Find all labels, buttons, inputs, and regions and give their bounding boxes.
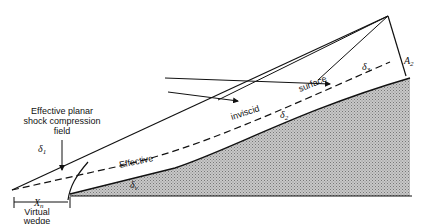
virtual-offset-label-2: wedge [23, 216, 51, 224]
diagram-canvas: Effective planar shock compression field… [0, 0, 444, 224]
delta1-label: δ1 [38, 143, 46, 156]
arrow-2 [168, 92, 238, 101]
delta2-label: δ2 [280, 109, 289, 122]
surface-label-surface: surface [297, 74, 328, 94]
surface-label-effective: Effective [118, 153, 154, 170]
a2-label: A2 [403, 55, 414, 68]
delta3-label: δ3 [362, 61, 371, 74]
shock-field-label-3: field [54, 126, 71, 136]
shock-field-label-1: Effective planar [31, 106, 93, 116]
shock-field-label-2: shock compression [23, 116, 100, 126]
wedge-body [70, 78, 410, 196]
fan-line-2 [318, 16, 388, 80]
apex-edge [388, 16, 406, 76]
surface-label-inviscid: inviscid [230, 103, 261, 122]
